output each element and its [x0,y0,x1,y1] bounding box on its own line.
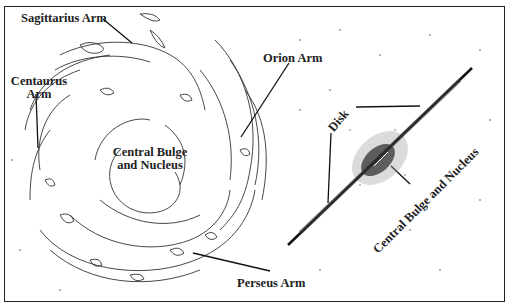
disk-leader-top [356,106,420,107]
galaxy-illustration [0,0,509,307]
label-centaurus-arm: Centaurus Arm [10,75,68,101]
sagittarius-leader [103,19,132,43]
label-central-bulge-face-on: Central Bulge and Nucleus [105,146,195,172]
label-orion-arm: Orion Arm [263,52,322,65]
label-perseus-arm: Perseus Arm [237,277,305,290]
edge-on-galaxy [288,68,472,245]
disk-leader-left [328,133,331,203]
centaurus-leader [36,94,38,148]
label-bulge-line2: and Nucleus [105,159,195,172]
star-field [11,29,491,291]
label-centaurus-line2: Arm [10,88,68,101]
perseus-leader [193,253,270,271]
label-sagittarius-arm: Sagittarius Arm [21,12,107,25]
